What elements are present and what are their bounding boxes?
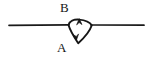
diagram-svg [0, 0, 151, 57]
label-b: B [60, 1, 69, 14]
left-horizontal-line [9, 25, 69, 26]
figure-canvas: B A [0, 0, 151, 57]
label-a: A [57, 41, 66, 54]
